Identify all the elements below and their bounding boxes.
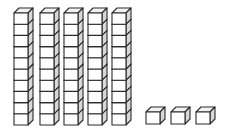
tens-rod-5-cube-8-front-face bbox=[112, 35, 126, 46]
tens-rod-5-cube-7-front-face bbox=[112, 47, 126, 58]
tens-rod-4-cube-5-front-face bbox=[88, 69, 102, 80]
tens-rod-3-cube-6-front-face bbox=[64, 58, 78, 69]
tens-rod-4-cube-3-front-face bbox=[88, 91, 102, 102]
tens-rod-5-cube-6-front-face bbox=[112, 58, 126, 69]
unit-cube-3-body bbox=[196, 107, 215, 124]
unit-cube-1-body bbox=[146, 107, 165, 124]
tens-rod-2-cube-7-front-face bbox=[40, 47, 54, 58]
unit-cube-2 bbox=[171, 107, 190, 124]
tens-rod-1 bbox=[14, 8, 33, 125]
tens-rod-3-cube-10-front-face bbox=[64, 13, 78, 24]
tens-rod-3-cube-2-front-face bbox=[64, 103, 78, 114]
tens-rod-1-cube-1-front-face bbox=[14, 114, 28, 125]
tens-rod-2 bbox=[40, 8, 59, 125]
tens-rod-3-cube-8-front-face bbox=[64, 35, 78, 46]
tens-rod-3-cube-10 bbox=[64, 8, 83, 24]
tens-rod-3-cube-1-front-face bbox=[64, 114, 78, 125]
tens-rod-4-cube-4-front-face bbox=[88, 80, 102, 91]
tens-rod-2-cube-4-front-face bbox=[40, 80, 54, 91]
tens-rod-5-cube-10 bbox=[112, 8, 131, 24]
tens-rod-4-cube-10 bbox=[88, 8, 107, 24]
tens-rod-5 bbox=[112, 8, 131, 125]
tens-rod-3-cube-4-front-face bbox=[64, 80, 78, 91]
tens-rod-4-cube-1-front-face bbox=[88, 114, 102, 125]
tens-rod-1-cube-2-front-face bbox=[14, 103, 28, 114]
tens-rod-3-cube-9-front-face bbox=[64, 24, 78, 35]
tens-rod-4-cube-8-front-face bbox=[88, 35, 102, 46]
tens-rod-4-cube-10-front-face bbox=[88, 13, 102, 24]
unit-cube-2-body bbox=[171, 107, 190, 124]
tens-rod-3-cube-3-front-face bbox=[64, 91, 78, 102]
tens-rod-1-cube-3-front-face bbox=[14, 91, 28, 102]
tens-rod-1-cube-10 bbox=[14, 8, 33, 24]
tens-rod-5-cube-3-front-face bbox=[112, 91, 126, 102]
tens-rod-2-cube-10-front-face bbox=[40, 13, 54, 24]
tens-rod-4 bbox=[88, 8, 107, 125]
tens-rod-5-cube-5-front-face bbox=[112, 69, 126, 80]
tens-rod-4-cube-9-front-face bbox=[88, 24, 102, 35]
tens-rod-5-cube-10-front-face bbox=[112, 13, 126, 24]
tens-rod-1-cube-4-front-face bbox=[14, 80, 28, 91]
unit-cube-1-body-front-face bbox=[146, 112, 160, 124]
tens-rod-5-cube-9-front-face bbox=[112, 24, 126, 35]
tens-rod-2-cube-5-front-face bbox=[40, 69, 54, 80]
tens-rod-2-cube-8-front-face bbox=[40, 35, 54, 46]
tens-rod-2-cube-6-front-face bbox=[40, 58, 54, 69]
tens-rod-3 bbox=[64, 8, 83, 125]
tens-rod-2-cube-2-front-face bbox=[40, 103, 54, 114]
tens-rod-5-cube-4-front-face bbox=[112, 80, 126, 91]
tens-rod-3-cube-5-front-face bbox=[64, 69, 78, 80]
tens-rod-1-cube-10-front-face bbox=[14, 13, 28, 24]
tens-rod-1-cube-5-front-face bbox=[14, 69, 28, 80]
tens-rod-3-cube-7-front-face bbox=[64, 47, 78, 58]
tens-rod-2-cube-10 bbox=[40, 8, 59, 24]
unit-cube-3 bbox=[196, 107, 215, 124]
unit-cube-1 bbox=[146, 107, 165, 124]
unit-cube-3-body-front-face bbox=[196, 112, 210, 124]
unit-cube-2-body-front-face bbox=[171, 112, 185, 124]
tens-rod-1-cube-9-front-face bbox=[14, 24, 28, 35]
tens-rod-1-cube-8-front-face bbox=[14, 35, 28, 46]
tens-rod-5-cube-2-front-face bbox=[112, 103, 126, 114]
tens-rod-4-cube-2-front-face bbox=[88, 103, 102, 114]
tens-rod-4-cube-7-front-face bbox=[88, 47, 102, 58]
base-ten-blocks-illustration bbox=[0, 0, 226, 138]
tens-rod-2-cube-3-front-face bbox=[40, 91, 54, 102]
tens-rod-1-cube-6-front-face bbox=[14, 58, 28, 69]
tens-rod-1-cube-7-front-face bbox=[14, 47, 28, 58]
tens-rod-2-cube-9-front-face bbox=[40, 24, 54, 35]
tens-rod-4-cube-6-front-face bbox=[88, 58, 102, 69]
tens-rod-2-cube-1-front-face bbox=[40, 114, 54, 125]
tens-rod-5-cube-1-front-face bbox=[112, 114, 126, 125]
base-ten-blocks-canvas: Five vertical rods of ten stacked unit c… bbox=[0, 0, 226, 138]
